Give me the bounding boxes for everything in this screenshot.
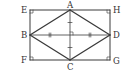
label-c: C [67, 62, 74, 72]
label-g: G [113, 56, 120, 66]
right-angle-center-icon [70, 32, 73, 35]
label-h: H [113, 5, 120, 15]
label-f: F [21, 55, 27, 65]
geometry-diagram: E A H B D F C G [0, 0, 128, 72]
side-ab [30, 10, 70, 35]
label-d: D [113, 30, 120, 40]
label-a: A [66, 0, 74, 10]
side-bc [30, 35, 70, 60]
label-e: E [21, 5, 27, 15]
side-cd [70, 35, 110, 60]
side-da [70, 10, 110, 35]
label-b: B [21, 30, 27, 40]
